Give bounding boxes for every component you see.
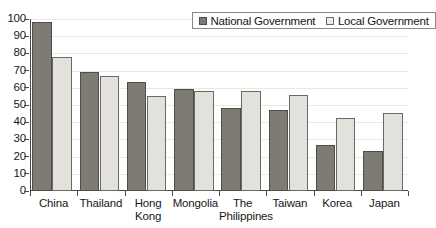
x-axis-labels: ChinaThailandHong KongMongoliaThe Philip… bbox=[30, 197, 408, 228]
x-axis-tick-mark bbox=[361, 191, 362, 196]
y-axis-tick-mark bbox=[24, 139, 29, 140]
x-axis-category-label: Thailand bbox=[77, 197, 124, 210]
bar-local bbox=[289, 95, 309, 191]
x-axis-tick-mark bbox=[266, 191, 267, 196]
y-axis-ticks bbox=[0, 0, 30, 228]
bar-national bbox=[80, 72, 100, 191]
x-axis-tick-mark bbox=[314, 191, 315, 196]
y-axis-tick-mark bbox=[24, 36, 29, 37]
y-axis-tick-mark bbox=[24, 122, 29, 123]
x-axis-category-label: Mongolia bbox=[172, 197, 219, 210]
bar-group bbox=[125, 19, 172, 191]
x-axis-tick-mark bbox=[219, 191, 220, 196]
y-axis-tick-mark bbox=[24, 156, 29, 157]
bars-layer bbox=[30, 19, 408, 191]
y-axis-tick-mark bbox=[24, 70, 29, 71]
y-axis-tick-mark bbox=[24, 191, 29, 192]
legend-item-local: Local Government bbox=[326, 15, 428, 27]
bar-group bbox=[77, 19, 124, 191]
x-axis-category-label: Korea bbox=[314, 197, 361, 210]
x-axis-category-label: Japan bbox=[361, 197, 408, 210]
y-axis-tick-mark bbox=[24, 53, 29, 54]
bar-group bbox=[30, 19, 77, 191]
x-axis-tick-mark bbox=[77, 191, 78, 196]
x-axis-category-label: The Philippines bbox=[219, 197, 266, 223]
y-axis-tick-mark bbox=[24, 173, 29, 174]
bar-group bbox=[266, 19, 313, 191]
legend-swatch-icon bbox=[326, 17, 334, 25]
x-axis-tick-mark bbox=[30, 191, 31, 196]
y-axis-tick-mark bbox=[24, 87, 29, 88]
chart-legend: National GovernmentLocal Government bbox=[192, 12, 436, 29]
x-axis-tick-mark bbox=[408, 191, 409, 196]
bar-national bbox=[221, 108, 241, 191]
bar-national bbox=[32, 22, 52, 191]
bar-national bbox=[269, 110, 289, 191]
bar-local bbox=[194, 91, 214, 191]
y-axis-tick-mark bbox=[24, 19, 29, 20]
bar-local bbox=[241, 91, 261, 191]
legend-label: Local Government bbox=[338, 15, 429, 27]
y-axis-tick-mark bbox=[24, 105, 29, 106]
bar-local bbox=[336, 118, 356, 191]
bar-local bbox=[52, 57, 72, 191]
bar-group bbox=[361, 19, 408, 191]
legend-item-national: National Government bbox=[199, 15, 315, 27]
bar-national bbox=[363, 151, 383, 191]
bar-local bbox=[147, 96, 167, 191]
x-axis-tick-mark bbox=[172, 191, 173, 196]
bar-national bbox=[174, 89, 194, 191]
bar-local bbox=[383, 113, 403, 191]
bar-group bbox=[172, 19, 219, 191]
legend-label: National Government bbox=[211, 15, 316, 27]
x-axis-category-label: Taiwan bbox=[266, 197, 313, 210]
legend-swatch-icon bbox=[199, 17, 207, 25]
bar-national bbox=[316, 145, 336, 191]
x-axis-tick-mark bbox=[125, 191, 126, 196]
bar-local bbox=[100, 76, 120, 191]
bar-group bbox=[314, 19, 361, 191]
x-axis-category-label: Hong Kong bbox=[125, 197, 172, 223]
bar-group bbox=[219, 19, 266, 191]
bar-national bbox=[127, 82, 147, 191]
x-axis-category-label: China bbox=[30, 197, 77, 210]
